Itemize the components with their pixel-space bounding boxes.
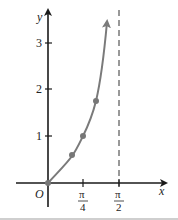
marked-points (45, 98, 99, 186)
x-tick-pi4-den: 4 (80, 201, 86, 213)
x-axis-label: x (158, 184, 165, 198)
x-tick-pi2-num: π (115, 188, 121, 200)
x-tick-pi4-num: π (79, 188, 85, 200)
point-pi-3 (93, 98, 99, 104)
y-tick-label-3: 3 (36, 36, 42, 50)
y-tick-label-2: 2 (36, 82, 42, 96)
origin-label: O (35, 187, 44, 201)
point-origin (45, 180, 51, 186)
point-pi-4 (80, 133, 86, 139)
y-tick-label-1: 1 (36, 129, 42, 143)
x-tick-pi2-den: 2 (116, 201, 122, 213)
point-pi-6 (69, 152, 75, 158)
y-axis-label: y (36, 10, 43, 24)
tan-graph: y x O 1 2 3 π 4 π 2 (0, 0, 178, 220)
bottom-divider (0, 218, 178, 220)
